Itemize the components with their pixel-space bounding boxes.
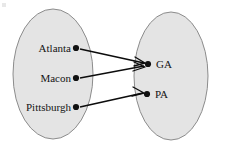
mapping-diagram-canvas: Atlanta Macon Pittsburgh GA PA [0, 0, 226, 150]
node-label-pa: PA [155, 88, 168, 100]
node-label-ga: GA [156, 58, 172, 70]
node-dot-atlanta [73, 45, 79, 51]
node-dot-ga [145, 61, 151, 67]
node-label-macon: Macon [40, 72, 71, 84]
function-mapping-figure: Atlanta Macon Pittsburgh GA PA [0, 0, 226, 150]
node-label-pittsburgh: Pittsburgh [26, 101, 72, 113]
node-dot-pa [144, 91, 150, 97]
node-label-atlanta: Atlanta [39, 42, 71, 54]
scan-artifact [2, 3, 6, 7]
node-dot-macon [73, 75, 79, 81]
node-dot-pittsburgh [73, 104, 79, 110]
codomain-oval [134, 12, 208, 140]
